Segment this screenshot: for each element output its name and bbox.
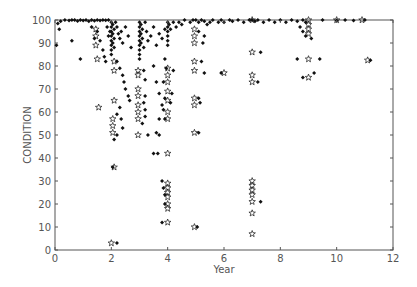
dot-marker-icon <box>140 122 144 126</box>
dot-marker-icon <box>259 50 263 54</box>
y-tick-label: 0 <box>45 245 51 256</box>
dot-marker-icon <box>202 34 206 38</box>
star-marker-icon <box>191 95 197 101</box>
dot-marker-icon <box>160 36 164 40</box>
star-marker-icon <box>95 104 101 110</box>
star-marker-icon <box>249 191 255 197</box>
star-marker-icon <box>135 93 141 99</box>
dot-marker-icon <box>143 78 147 82</box>
scatter-chart: 0102030405060708090100 024681012 Year CO… <box>0 0 417 287</box>
star-marker-icon <box>249 210 255 216</box>
dot-marker-icon <box>216 20 220 24</box>
y-tick-label: 90 <box>38 38 51 49</box>
star-marker-icon <box>111 97 117 103</box>
star-marker-icon <box>305 74 311 80</box>
dot-marker-icon <box>211 18 215 22</box>
dot-marker-icon <box>123 87 127 91</box>
dot-marker-icon <box>199 59 203 63</box>
dot-marker-icon <box>312 71 316 75</box>
dot-marker-icon <box>143 94 147 98</box>
x-tick-label: 12 <box>387 253 400 264</box>
y-tick-label: 50 <box>38 130 51 141</box>
dot-marker-icon <box>115 112 119 116</box>
dot-marker-icon <box>121 126 125 130</box>
dot-marker-icon <box>163 27 167 31</box>
dot-marker-icon <box>183 18 187 22</box>
dot-marker-icon <box>118 36 122 40</box>
dot-marker-icon <box>163 57 167 61</box>
dot-marker-icon <box>197 30 201 34</box>
dot-marker-icon <box>142 69 146 73</box>
dot-marker-icon <box>201 41 205 45</box>
dot-marker-icon <box>188 20 192 24</box>
dot-marker-icon <box>154 131 158 135</box>
dot-marker-icon <box>118 66 122 70</box>
dot-marker-icon <box>123 25 127 29</box>
dot-marker-icon <box>157 92 161 96</box>
dot-marker-icon <box>101 48 105 52</box>
dot-marker-icon <box>156 151 160 155</box>
dot-marker-icon <box>112 46 116 50</box>
star-marker-icon <box>110 122 116 128</box>
dot-marker-icon <box>115 133 119 137</box>
dot-marker-icon <box>112 138 116 142</box>
star-marker-icon <box>135 132 141 138</box>
dot-marker-icon <box>78 57 82 61</box>
dot-marker-icon <box>119 30 123 34</box>
dot-marker-icon <box>197 20 201 24</box>
x-tick-label: 10 <box>330 253 343 264</box>
dot-marker-icon <box>301 30 305 34</box>
dot-marker-icon <box>126 34 130 38</box>
star-marker-icon <box>164 205 170 211</box>
dot-marker-icon <box>102 55 106 59</box>
x-tick-label: 4 <box>164 253 170 264</box>
y-tick-label: 80 <box>38 61 51 72</box>
dot-marker-icon <box>267 18 271 22</box>
dot-marker-icon <box>119 117 123 121</box>
dot-marker-icon <box>166 43 170 47</box>
star-marker-icon <box>164 116 170 122</box>
star-marker-icon <box>135 109 141 115</box>
dot-marker-icon <box>104 59 108 63</box>
dot-marker-icon <box>219 18 223 22</box>
dot-marker-icon <box>112 27 116 31</box>
dot-marker-icon <box>157 133 161 137</box>
y-tick-label: 40 <box>38 153 51 164</box>
dot-marker-icon <box>309 36 313 40</box>
dot-marker-icon <box>143 115 147 119</box>
y-tick-label: 30 <box>38 176 51 187</box>
star-marker-icon <box>191 224 197 230</box>
star-marker-icon <box>364 57 370 63</box>
series-observed <box>54 18 372 245</box>
dot-marker-icon <box>208 20 212 24</box>
dot-marker-icon <box>146 39 150 43</box>
y-tick-label: 100 <box>32 15 51 26</box>
dot-marker-icon <box>115 25 119 29</box>
dot-marker-icon <box>98 39 102 43</box>
dot-marker-icon <box>160 179 164 183</box>
dot-marker-icon <box>128 99 132 103</box>
star-marker-icon <box>111 67 117 73</box>
dot-marker-icon <box>152 64 156 68</box>
dot-marker-icon <box>146 133 150 137</box>
plot-frame <box>55 20 393 250</box>
star-marker-icon <box>164 219 170 225</box>
dot-marker-icon <box>142 101 146 105</box>
star-marker-icon <box>305 56 311 62</box>
series-predicted <box>93 17 371 246</box>
dot-marker-icon <box>290 18 294 22</box>
dot-marker-icon <box>138 53 142 57</box>
dot-marker-icon <box>143 108 147 112</box>
x-tick-label: 6 <box>221 253 227 264</box>
dot-marker-icon <box>145 30 149 34</box>
dot-marker-icon <box>284 20 288 24</box>
y-axis-label: CONDITION <box>22 106 33 163</box>
dot-marker-icon <box>157 32 161 36</box>
star-marker-icon <box>111 58 117 64</box>
dot-marker-icon <box>149 34 153 38</box>
dot-marker-icon <box>121 41 125 45</box>
dot-marker-icon <box>143 20 147 24</box>
dot-marker-icon <box>107 18 111 22</box>
star-marker-icon <box>191 33 197 39</box>
dot-marker-icon <box>177 20 181 24</box>
